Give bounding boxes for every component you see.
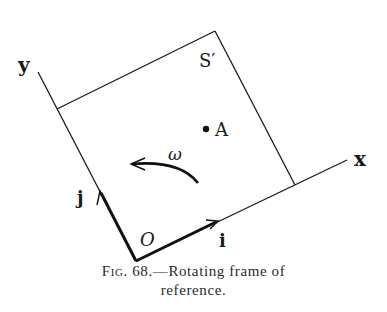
- caption-line-2: reference.: [0, 281, 387, 300]
- unit-vector-j: [101, 193, 136, 261]
- omega-label: ω: [168, 144, 182, 164]
- x-axis-label: x: [354, 147, 367, 171]
- caption-number: 68.: [132, 263, 153, 279]
- point-a-dot: [203, 126, 209, 132]
- point-a-label: A: [214, 119, 229, 140]
- y-axis-label: y: [17, 53, 31, 77]
- origin-label: O: [140, 229, 155, 250]
- frame-label: S′: [199, 50, 215, 71]
- unit-j-label: j: [75, 187, 84, 208]
- rotation-arc: [132, 163, 198, 183]
- frame-top-edge: [57, 31, 215, 109]
- unit-i-label: i: [219, 230, 226, 251]
- frame-right-edge: [215, 31, 295, 185]
- caption-line-1: Fig. 68.—Rotating frame of: [0, 262, 387, 281]
- caption-prefix: Fig.: [102, 263, 128, 279]
- figure-caption: Fig. 68.—Rotating frame of reference.: [0, 262, 387, 300]
- caption-text: —Rotating frame of: [153, 263, 285, 279]
